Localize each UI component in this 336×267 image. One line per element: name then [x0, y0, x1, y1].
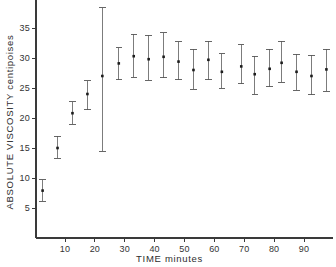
y-tick-label: 5 — [25, 203, 30, 213]
data-point — [323, 49, 329, 91]
data-point — [190, 49, 196, 89]
y-axis-title: ABSOLUTE VISCOSITY centipoises — [4, 35, 15, 210]
data-point — [116, 48, 122, 80]
data-marker — [268, 68, 271, 71]
data-point — [266, 49, 272, 87]
data-marker — [325, 68, 328, 71]
data-marker — [162, 56, 165, 59]
data-marker — [192, 69, 195, 72]
x-tick-label: 80 — [269, 244, 279, 254]
data-point — [252, 56, 258, 94]
data-marker — [132, 55, 135, 58]
x-tick-label: 90 — [299, 244, 309, 254]
data-marker — [117, 62, 120, 65]
data-point — [69, 102, 75, 124]
data-marker — [295, 71, 298, 74]
y-tick-label: 25 — [20, 83, 30, 93]
y-tick-label: 30 — [20, 53, 30, 63]
data-point — [278, 41, 284, 82]
chart-canvas: 5101520253035102030405060708090 TIME min… — [0, 0, 336, 267]
data-marker — [207, 59, 210, 62]
y-tick-label: 35 — [20, 23, 30, 33]
x-tick-label: 10 — [60, 244, 70, 254]
data-marker — [240, 65, 243, 68]
data-point — [39, 180, 45, 202]
data-marker — [221, 71, 224, 74]
viscosity-vs-time-figure: 5101520253035102030405060708090 TIME min… — [0, 0, 336, 267]
data-point — [238, 45, 244, 84]
data-marker — [147, 58, 150, 61]
x-tick-label: 20 — [90, 244, 100, 254]
data-point — [54, 136, 60, 158]
y-tick-label: 20 — [20, 113, 30, 123]
data-point — [131, 34, 137, 77]
data-marker — [253, 73, 256, 76]
x-axis-title: TIME minutes — [136, 253, 203, 264]
data-marker — [177, 60, 180, 63]
y-tick-label: 10 — [20, 173, 30, 183]
axis-titles: TIME minutesABSOLUTE VISCOSITY centipois… — [4, 35, 203, 265]
data-marker — [310, 75, 313, 78]
data-marker — [101, 75, 104, 78]
data-point — [145, 35, 151, 80]
y-tick-label: 15 — [20, 143, 30, 153]
data-marker — [56, 147, 59, 150]
data-marker — [86, 93, 89, 96]
data-point — [219, 54, 225, 88]
x-tick-label: 60 — [209, 244, 219, 254]
data-point — [175, 42, 181, 80]
x-tick-label: 50 — [179, 244, 189, 254]
axes — [36, 0, 333, 238]
data-marker — [280, 62, 283, 65]
data-marker — [41, 189, 44, 192]
x-tick-label: 70 — [239, 244, 249, 254]
x-tick-label: 40 — [149, 244, 159, 254]
data-marker — [71, 112, 74, 115]
data-point — [84, 81, 90, 110]
data-point — [308, 55, 314, 95]
data-points-with-error-bars — [39, 8, 329, 202]
axis-ticks — [32, 28, 304, 242]
x-tick-label: 30 — [120, 244, 130, 254]
data-point — [99, 8, 105, 151]
data-point — [160, 33, 166, 78]
data-point — [205, 41, 211, 79]
data-point — [293, 54, 299, 90]
